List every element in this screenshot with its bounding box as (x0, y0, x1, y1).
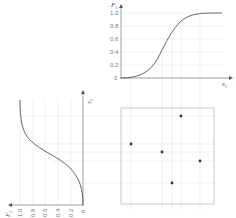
left-cdf-plot: 1.0 0.8 0.6 0.4 0.2 0 F2 x2 (4, 92, 94, 218)
left-x-ticks: 1.0 0.8 0.6 0.4 0.2 0 (17, 208, 86, 217)
top-y-tick: 0 (114, 75, 118, 81)
scatter-point (171, 182, 174, 185)
left-y-axis-label: x2 (85, 98, 94, 105)
top-y-tick: 0.8 (110, 23, 119, 29)
left-x-axis-label: F2 (4, 210, 13, 218)
top-y-ticks: 1.0 0.8 0.6 0.4 0.2 0 (110, 10, 119, 81)
scatter-point (180, 115, 183, 118)
left-x-tick: 1.0 (17, 208, 23, 217)
top-y-tick: 1.0 (110, 10, 119, 16)
left-x-tick: 0.8 (30, 208, 36, 217)
top-y-axis-label: F1 (110, 1, 118, 10)
scatter-point (161, 151, 164, 154)
copula-diagram: 1.0 0.8 0.6 0.4 0.2 0 F1 x1 1.0 0.8 0.6 … (0, 0, 236, 218)
scatter-point (130, 143, 133, 146)
top-x-axis-label: x1 (221, 80, 227, 89)
left-x-tick: 0.2 (68, 208, 74, 217)
scatter-point (199, 160, 202, 163)
top-cdf-curve (121, 13, 222, 78)
top-y-tick: 0.4 (110, 49, 119, 55)
top-y-tick: 0.2 (110, 62, 119, 68)
left-x-tick: 0.4 (55, 208, 61, 217)
left-x-tick: 0.6 (42, 208, 48, 217)
top-cdf-plot: 1.0 0.8 0.6 0.4 0.2 0 F1 x1 (110, 1, 231, 89)
left-x-tick: 0 (80, 209, 86, 213)
top-y-tick: 0.6 (110, 36, 119, 42)
scatter-points (130, 115, 202, 185)
